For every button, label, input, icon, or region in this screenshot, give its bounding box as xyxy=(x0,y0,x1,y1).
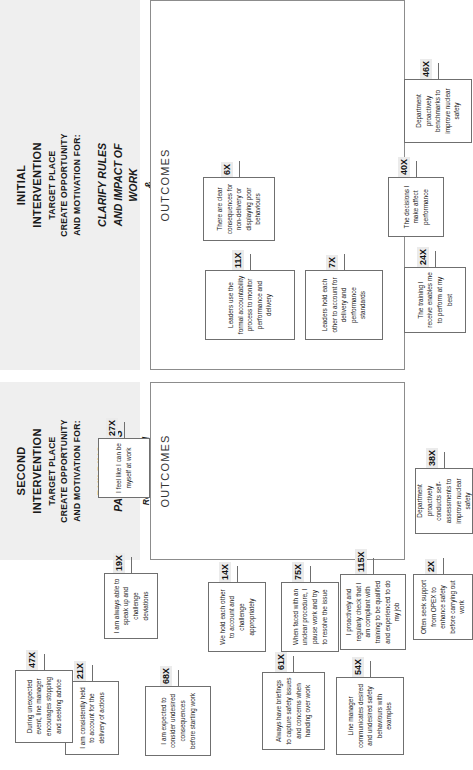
outcome-tag: 11X xyxy=(232,250,244,270)
outcome-tag: 68X xyxy=(160,666,172,686)
outcome-tag: 38X xyxy=(426,448,438,468)
initial-intervention-line3: TARGET PLACE xyxy=(46,150,58,219)
outcome-box: I am always able to speak up and challen… xyxy=(104,573,158,639)
outcome-box: Line manager communicates desired and un… xyxy=(336,677,404,755)
outcome-box: Leaders use the formal accountability pr… xyxy=(205,270,295,340)
outcome-box: I am consistently held to account for th… xyxy=(65,681,119,755)
initial-intervention-emphasis-2: AND IMPACT OF xyxy=(111,144,127,227)
outcome-box: Department proactively conducts self-ass… xyxy=(415,468,473,534)
outcome-tag: 7X xyxy=(326,255,338,270)
outcome-tag: 46X xyxy=(420,59,432,79)
outcome-box: When faced with an unclear procedure, I … xyxy=(281,582,339,652)
outcome-box: Always have briefings to capture safety … xyxy=(262,672,325,750)
outcome-tag: 6X xyxy=(221,162,233,177)
initial-intervention-line5: AND MOTIVATION FOR: xyxy=(71,134,83,236)
outcome-box: Department proactively benchmarks to imp… xyxy=(404,79,472,143)
outcome-box: Leaders hold each other to account for d… xyxy=(305,270,383,340)
second-outcomes-title: OUTCOMES xyxy=(159,383,171,559)
initial-intervention-emphasis-3: WORK xyxy=(126,168,142,201)
outcome-tag: 27X xyxy=(106,418,118,438)
outcome-tag: 61X xyxy=(275,652,287,672)
outcome-tag: 115X xyxy=(355,549,367,574)
second-intervention-line2: INTERVENTION xyxy=(30,428,46,513)
outcome-tag: 14X xyxy=(219,562,231,582)
outcome-tag: 21X xyxy=(74,661,86,681)
initial-intervention-line4: CREATE OPPORTUNITY xyxy=(58,133,70,236)
initial-intervention-line1: INITIAL xyxy=(14,165,30,206)
outcome-box: I proactively and regularly check that I… xyxy=(340,574,406,650)
outcome-box: There are clear consequences for non-del… xyxy=(203,177,275,241)
outcome-tag: 75X xyxy=(292,562,304,582)
second-intervention-outcomes-panel: OUTCOMES xyxy=(150,382,405,560)
outcome-box: We hold each other to account and challe… xyxy=(208,582,266,652)
second-intervention-line3: TARGET PLACE xyxy=(46,436,58,505)
outcome-tag: 19X xyxy=(113,553,125,573)
outcome-box: I feel like I can be myself at work xyxy=(98,438,150,498)
second-intervention-line4: CREATE OPPORTUNITY xyxy=(58,419,70,522)
outcome-tag: 24X xyxy=(417,247,429,267)
outcome-tag: 47X xyxy=(26,650,38,670)
second-intervention-line1: SECOND xyxy=(14,447,30,496)
initial-intervention-header-panel: INITIAL INTERVENTION TARGET PLACE CREATE… xyxy=(0,0,140,370)
outcome-box: The decisions I make affect performance xyxy=(388,177,444,237)
outcome-box: I am expected to consider undesired cons… xyxy=(145,686,211,756)
outcome-tag: 2X xyxy=(425,559,437,574)
second-intervention-line5: AND MOTIVATION FOR: xyxy=(71,420,83,522)
outcome-box: During unexpected event, line manager en… xyxy=(15,670,73,743)
initial-intervention-line2: INTERVENTION xyxy=(30,142,46,227)
outcome-box: The training I receive enables me to per… xyxy=(404,267,466,333)
outcome-tag: 54X xyxy=(352,657,364,677)
outcome-tag: 40X xyxy=(398,157,410,177)
initial-outcomes-title: OUTCOMES xyxy=(159,1,171,369)
initial-intervention-emphasis-1: CLARIFY RULES xyxy=(95,143,111,227)
outcome-box: Often seek support from OPEX to enhance … xyxy=(413,574,473,640)
